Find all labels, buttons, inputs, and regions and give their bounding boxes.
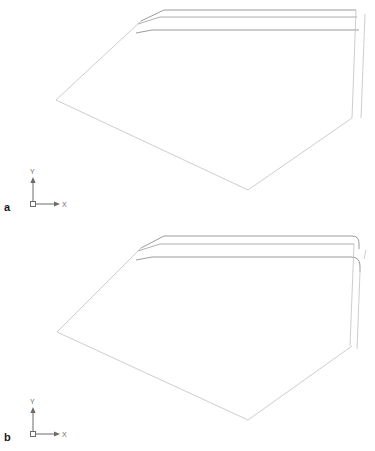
panel-b-x-axis-label: X [62,431,67,438]
panel-a-left-diagonal [56,21,141,100]
panel-b-top-edge-inner [136,257,360,272]
panel-a-x-axis-arrow [54,201,60,206]
panel-b-bottom-left-diagonal [57,332,248,420]
panel-b: Y X b [4,236,366,443]
panel-a-x-axis-label: X [62,201,67,208]
panel-b-left-diagonal [57,248,141,332]
panel-b-label: b [4,431,11,443]
panel-b-y-axis-arrow [30,407,35,413]
figure-root: Y X a [0,0,375,451]
panel-b-right-vertical-outer [350,244,354,346]
panel-b-shape-outline [57,236,366,420]
panel-a-label: a [4,201,11,213]
panel-b-top-edge-middle [138,244,354,251]
panel-a-axis-indicator: Y X [30,168,67,208]
panel-a: Y X a [4,10,365,213]
panel-a-right-vertical-outer [352,10,356,118]
panel-a-shape-outline [56,10,365,190]
technical-drawing-canvas: Y X a [0,0,375,451]
panel-a-y-axis-arrow [30,177,35,183]
panel-a-top-edge-middle [138,17,357,24]
panel-b-y-axis-label: Y [30,398,35,405]
panel-b-top-edge-outer [141,236,359,249]
panel-a-bottom-left-diagonal [56,100,248,190]
panel-b-bottom-right-diagonal [248,346,352,420]
panel-b-x-axis-arrow [54,431,60,436]
panel-a-y-axis-label: Y [30,168,35,175]
panel-b-right-vertical-inner [357,272,360,349]
panel-b-axis-indicator: Y X [30,398,67,438]
panel-a-right-vertical-inner [361,14,365,118]
panel-b-axis-origin-marker [31,432,36,437]
panel-a-top-edge-outer [141,10,356,21]
panel-a-axis-origin-marker [31,202,36,207]
panel-a-top-edge-inner [136,30,359,33]
panel-a-bottom-right-diagonal [248,118,352,190]
panel-b-right-vertical-corner [364,250,366,259]
